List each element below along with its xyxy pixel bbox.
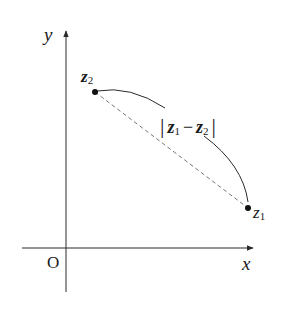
complex-plane-diagram: y x O z2 z1 |z1−z2| [0, 0, 285, 310]
point-z2 [92, 89, 98, 95]
label-z1: z1 [252, 203, 265, 222]
point-z1 [245, 205, 251, 211]
distance-segment [95, 92, 248, 208]
label-z2: z2 [80, 67, 93, 86]
origin-label: O [47, 253, 59, 272]
brace-curve-upper [97, 90, 165, 108]
x-axis-label: x [241, 253, 251, 274]
distance-label: |z1−z2| [160, 113, 216, 138]
brace-curve-lower [204, 136, 248, 202]
y-axis-label: y [42, 24, 53, 45]
